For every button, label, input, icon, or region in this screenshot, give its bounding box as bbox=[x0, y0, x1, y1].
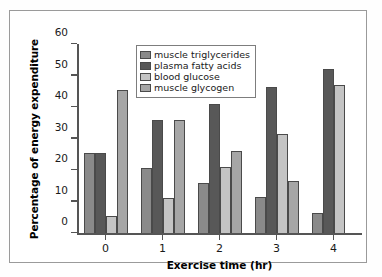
bar bbox=[198, 183, 209, 233]
legend-label: blood glucose bbox=[154, 72, 220, 82]
bar bbox=[266, 87, 277, 233]
bar-group bbox=[84, 44, 128, 233]
legend-swatch bbox=[140, 51, 151, 59]
x-tick-mark bbox=[162, 234, 163, 240]
y-axis-title-text: Percentage of energy expenditure bbox=[28, 38, 40, 238]
x-tick-mark bbox=[276, 234, 277, 240]
chart-legend: muscle triglyceridesplasma fatty acidsbl… bbox=[136, 45, 256, 98]
bar bbox=[209, 104, 220, 233]
y-tick-label: 10 bbox=[55, 184, 68, 196]
bar bbox=[312, 213, 323, 233]
x-tick-mark bbox=[105, 234, 106, 240]
y-tick-label: 30 bbox=[55, 121, 68, 133]
y-tick-label: 50 bbox=[55, 58, 68, 70]
legend-label: muscle glycogen bbox=[154, 83, 234, 93]
x-tick-mark bbox=[219, 234, 220, 240]
x-tick-label: 1 bbox=[159, 242, 166, 255]
legend-item: blood glucose bbox=[140, 72, 250, 83]
y-tick-label: 40 bbox=[55, 89, 68, 101]
bar bbox=[231, 151, 242, 233]
x-tick-label: 0 bbox=[102, 242, 109, 255]
legend-swatch bbox=[140, 84, 151, 92]
legend-label: plasma fatty acids bbox=[154, 61, 241, 71]
x-tick-label: 4 bbox=[330, 242, 337, 255]
bar bbox=[277, 134, 288, 233]
y-axis-line bbox=[77, 44, 79, 233]
bar bbox=[163, 198, 174, 233]
legend-label: muscle triglycerides bbox=[154, 50, 250, 60]
y-tick-label: 60 bbox=[55, 26, 68, 38]
x-tick-label: 2 bbox=[216, 242, 223, 255]
y-tick-label: 0 bbox=[61, 215, 68, 227]
y-tick-mark bbox=[71, 106, 77, 107]
y-axis-title: Percentage of energy expenditure bbox=[27, 44, 41, 233]
bar bbox=[334, 85, 345, 233]
y-tick-mark bbox=[71, 43, 77, 44]
bar bbox=[117, 90, 128, 233]
bar bbox=[95, 153, 106, 233]
x-axis-title: Exercise time (hr) bbox=[77, 259, 362, 271]
bar bbox=[106, 216, 117, 233]
legend-item: muscle triglycerides bbox=[140, 50, 250, 61]
x-tick-label: 3 bbox=[273, 242, 280, 255]
bar bbox=[288, 181, 299, 233]
x-tick-mark bbox=[333, 234, 334, 240]
legend-item: muscle glycogen bbox=[140, 83, 250, 94]
y-tick-mark bbox=[71, 169, 77, 170]
bar bbox=[220, 167, 231, 233]
bar bbox=[141, 168, 152, 233]
y-tick-mark bbox=[71, 137, 77, 138]
bar bbox=[255, 197, 266, 233]
figure-frame: Percentage of energy expenditure Exercis… bbox=[9, 10, 367, 263]
bar-group bbox=[255, 44, 299, 233]
legend-swatch bbox=[140, 62, 151, 70]
bar-group bbox=[312, 44, 356, 233]
bar bbox=[84, 153, 95, 233]
y-tick-label: 20 bbox=[55, 152, 68, 164]
bar bbox=[174, 120, 185, 233]
bar bbox=[323, 69, 334, 233]
y-tick-mark bbox=[71, 74, 77, 75]
legend-item: plasma fatty acids bbox=[140, 61, 250, 72]
y-tick-mark bbox=[71, 200, 77, 201]
bar bbox=[152, 120, 163, 233]
legend-swatch bbox=[140, 73, 151, 81]
y-tick-mark bbox=[71, 232, 77, 233]
